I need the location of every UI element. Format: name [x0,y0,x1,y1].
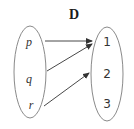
arrow-r-to-2 [44,73,89,106]
codomain-element-3: 3 [103,97,111,111]
mapping-diagram: D p q r 1 2 3 [0,0,134,129]
diagram-title: D [69,7,79,22]
codomain-element-1: 1 [103,35,111,49]
domain-element-q: q [26,72,32,86]
codomain-element-2: 2 [103,67,111,81]
domain-element-p: p [25,35,32,49]
arrow-q-to-1 [47,44,92,71]
domain-element-r: r [29,98,34,112]
